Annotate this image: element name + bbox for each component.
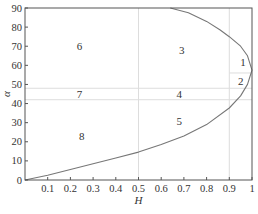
y-tick-label: 50 <box>12 79 23 90</box>
y-tick-label: 0 <box>17 175 22 186</box>
region-label: 7 <box>77 88 83 100</box>
x-tick-label: 0.8 <box>200 183 213 194</box>
x-axis-label: H <box>134 194 144 206</box>
reference-lines <box>25 8 252 180</box>
region-label: 3 <box>179 44 185 56</box>
y-axis-ticks: 0102030405060708090 <box>12 3 29 186</box>
y-tick-label: 40 <box>12 98 23 109</box>
region-label: 6 <box>77 40 83 52</box>
x-tick-label: 0.6 <box>155 183 168 194</box>
y-tick-label: 70 <box>12 41 23 52</box>
region-label: 5 <box>177 115 183 127</box>
x-tick-label: 0.2 <box>64 183 77 194</box>
y-tick-label: 20 <box>12 136 23 147</box>
y-axis-label: α <box>0 91 12 97</box>
chart: 0.10.20.30.40.50.60.70.80.91 01020304050… <box>0 0 258 214</box>
y-tick-label: 80 <box>12 22 23 33</box>
y-tick-label: 60 <box>12 60 23 71</box>
y-tick-label: 90 <box>12 3 23 14</box>
x-tick-label: 0.3 <box>87 183 100 194</box>
y-tick-label: 10 <box>12 155 23 166</box>
x-tick-label: 1 <box>249 183 254 194</box>
region-label: 2 <box>238 75 244 87</box>
region-labels: 12345678 <box>77 40 246 142</box>
region-label: 4 <box>177 88 183 100</box>
x-tick-label: 0.4 <box>109 183 123 194</box>
x-tick-label: 0.1 <box>41 183 54 194</box>
region-label: 8 <box>79 130 85 142</box>
region-label: 1 <box>240 56 246 68</box>
x-tick-label: 0.7 <box>177 183 190 194</box>
y-tick-label: 30 <box>12 117 23 128</box>
x-tick-label: 0.5 <box>132 183 145 194</box>
x-tick-label: 0.9 <box>223 183 236 194</box>
